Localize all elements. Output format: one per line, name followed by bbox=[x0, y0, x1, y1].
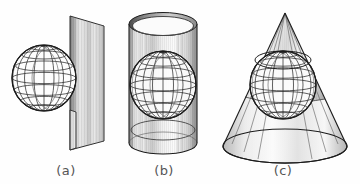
geometry-figure: (a) bbox=[0, 0, 360, 184]
panel-b-sphere-in-cylinder: (b) bbox=[129, 13, 197, 179]
wireframe-sphere-a bbox=[12, 44, 76, 112]
caption-b: (b) bbox=[154, 163, 174, 178]
caption-a: (a) bbox=[56, 163, 75, 178]
figure-container: (a) bbox=[0, 0, 360, 184]
wireframe-sphere-c bbox=[250, 51, 316, 119]
panel-c-sphere-in-cone: (c) bbox=[221, 12, 349, 178]
tangent-plane-front-sliver bbox=[70, 110, 76, 150]
panel-a-sphere-tangent-plane: (a) bbox=[12, 14, 104, 178]
wireframe-sphere-b bbox=[130, 51, 196, 119]
caption-c: (c) bbox=[274, 163, 293, 178]
